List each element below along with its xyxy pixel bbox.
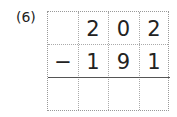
subtraction-grid: 2 0 2 − 1 9 1: [47, 11, 169, 111]
minuend-digit: 0: [108, 12, 139, 45]
answer-cell[interactable]: [139, 78, 169, 111]
problem-number: (6): [16, 9, 36, 25]
answer-cell[interactable]: [48, 78, 78, 111]
minus-sign: −: [48, 45, 78, 78]
subtrahend-digit: 1: [139, 45, 169, 78]
subtrahend-digit: 1: [78, 45, 108, 78]
minuend-digit: 2: [78, 12, 108, 45]
answer-cell[interactable]: [78, 78, 108, 111]
answer-cell[interactable]: [108, 78, 139, 111]
subtrahend-digit: 9: [108, 45, 139, 78]
minuend-digit: 2: [139, 12, 169, 45]
minuend-digit: [48, 12, 78, 45]
